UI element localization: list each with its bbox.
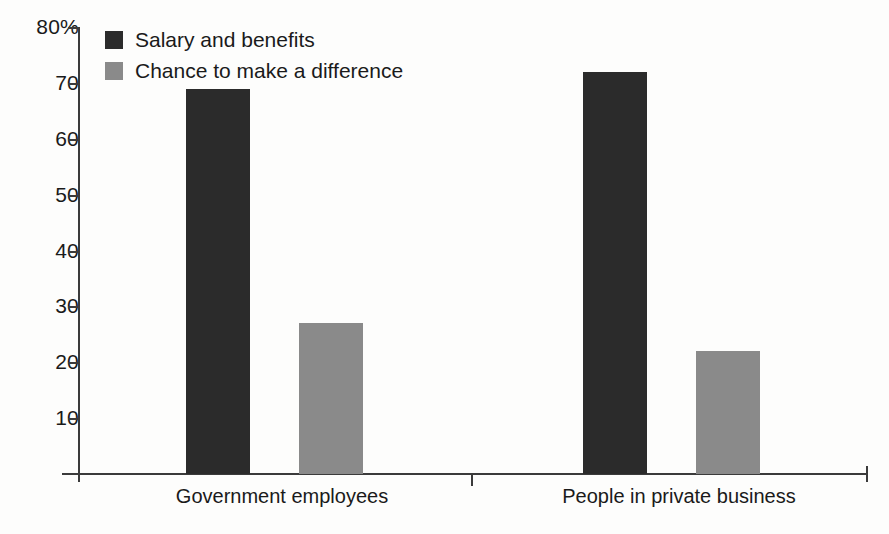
bar-chance-to-make-a-difference-group-1 — [299, 323, 363, 474]
legend-item-label: Chance to make a difference — [135, 60, 403, 81]
legend-item: Salary and benefits — [105, 25, 403, 54]
x-axis-category-label: Government employees — [82, 486, 482, 506]
bar-salary-and-benefits-group-2 — [583, 72, 647, 474]
bar-salary-and-benefits-group-1 — [186, 89, 250, 474]
bar-chart: 80%70605040302010 Salary and benefitsCha… — [0, 0, 889, 534]
x-axis-group-separator-tick — [471, 473, 473, 486]
bar-chance-to-make-a-difference-group-2 — [696, 351, 760, 474]
x-axis-category-label: People in private business — [479, 486, 879, 506]
legend-swatch-icon — [105, 62, 123, 80]
legend-item-label: Salary and benefits — [135, 29, 315, 50]
legend-item: Chance to make a difference — [105, 56, 403, 85]
legend-swatch-icon — [105, 31, 123, 49]
chart-legend: Salary and benefitsChance to make a diff… — [105, 25, 403, 87]
